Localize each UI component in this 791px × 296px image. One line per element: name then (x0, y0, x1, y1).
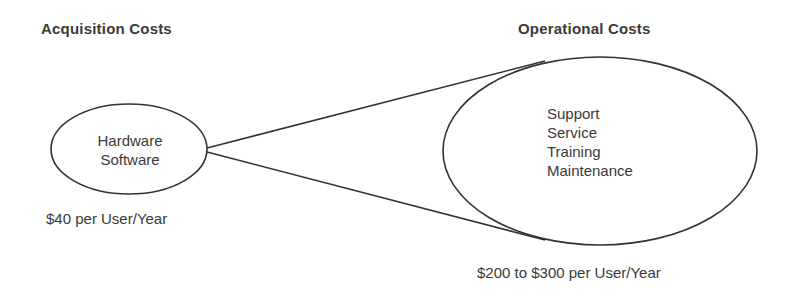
lower-connector-line (207, 152, 545, 240)
operational-cost-label: $200 to $300 per User/Year (477, 264, 661, 281)
upper-connector-line (207, 61, 545, 148)
tco-diagram: Acquisition Costs Operational Costs Hard… (0, 0, 791, 296)
operational-item-maintenance: Maintenance (547, 161, 633, 180)
operational-items: Support Service Training Maintenance (547, 104, 633, 180)
acquisition-item-hardware: Hardware (88, 131, 172, 150)
acquisition-costs-heading: Acquisition Costs (41, 20, 172, 37)
acquisition-items: Hardware Software (88, 131, 172, 169)
acquisition-cost-label: $40 per User/Year (46, 210, 167, 227)
operational-item-service: Service (547, 123, 633, 142)
acquisition-item-software: Software (88, 150, 172, 169)
operational-costs-heading: Operational Costs (518, 20, 651, 37)
operational-item-support: Support (547, 104, 633, 123)
operational-item-training: Training (547, 142, 633, 161)
